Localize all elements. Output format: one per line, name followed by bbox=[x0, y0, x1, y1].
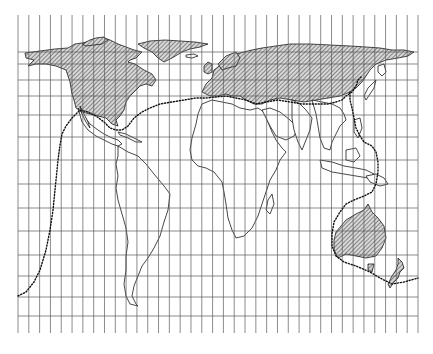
southeast-asia bbox=[312, 100, 346, 150]
dotted-route-north bbox=[18, 76, 362, 296]
south-america bbox=[116, 146, 170, 306]
map-canvas bbox=[0, 0, 433, 354]
greenland bbox=[138, 40, 208, 62]
world-map bbox=[0, 0, 433, 354]
indonesia bbox=[320, 160, 374, 178]
india bbox=[292, 100, 312, 150]
sakhalin bbox=[378, 64, 386, 76]
japan bbox=[364, 80, 376, 100]
iceland bbox=[186, 54, 198, 58]
madagascar bbox=[266, 194, 274, 214]
